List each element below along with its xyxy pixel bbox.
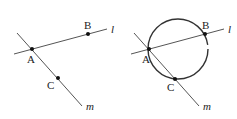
line-l bbox=[131, 29, 224, 54]
point-c bbox=[56, 76, 60, 80]
label-b: B bbox=[84, 19, 91, 31]
label-line-m: m bbox=[203, 100, 211, 112]
point-a bbox=[30, 47, 34, 51]
line-l bbox=[14, 29, 107, 54]
label-c: C bbox=[167, 81, 174, 93]
point-b bbox=[203, 32, 207, 36]
label-a: A bbox=[27, 53, 35, 65]
label-c: C bbox=[47, 79, 54, 91]
point-b bbox=[86, 32, 90, 36]
label-line-l: l bbox=[111, 23, 114, 35]
right-figure: A B C l m bbox=[131, 19, 231, 112]
left-figure: A B C l m bbox=[14, 19, 114, 112]
label-line-m: m bbox=[86, 100, 94, 112]
circle-through-abc bbox=[148, 19, 208, 79]
label-a: A bbox=[142, 53, 150, 65]
point-a bbox=[147, 47, 151, 51]
geometry-diagram: A B C l m A B C l m bbox=[0, 0, 237, 119]
label-b: B bbox=[202, 19, 209, 31]
label-line-l: l bbox=[228, 23, 231, 35]
